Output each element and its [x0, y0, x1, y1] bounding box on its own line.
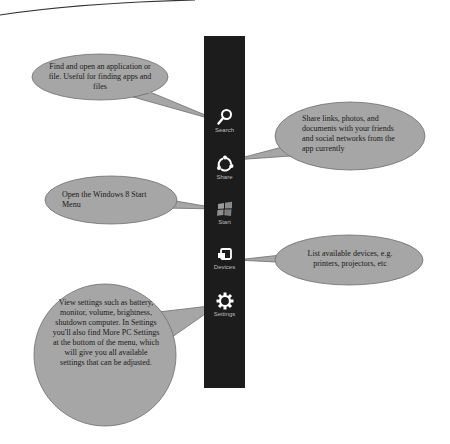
charm-label-search: Search: [204, 127, 245, 134]
devices-callout-text: List available devices, e.g. printers, p…: [300, 249, 400, 269]
charm-label-devices: Devices: [204, 264, 245, 271]
magnifier-icon: [217, 108, 233, 126]
charm-search[interactable]: Search: [204, 108, 245, 134]
devices-icon: [216, 247, 234, 263]
charm-label-share: Share: [204, 174, 245, 181]
settings-callout-text: View settings such as battery, monitor, …: [52, 298, 160, 368]
charm-devices[interactable]: Devices: [204, 247, 245, 271]
windows-logo-icon: [216, 200, 234, 218]
charm-label-start: Start: [204, 219, 245, 226]
gear-icon: [216, 292, 234, 310]
share-callout-text: Share links, photos, and documents with …: [302, 114, 402, 154]
charm-label-settings: Settings: [204, 311, 245, 318]
share-icon: [216, 155, 234, 173]
charm-start[interactable]: Start: [204, 200, 245, 226]
charm-settings[interactable]: Settings: [204, 292, 245, 318]
charms-bar: Search Share Start Devices: [204, 36, 245, 388]
start-callout-text: Open the Windows 8 Start Menu: [62, 190, 162, 210]
page-edge-curve: [0, 0, 195, 15]
charm-share[interactable]: Share: [204, 155, 245, 181]
search-callout-text: Find and open an application or file. Us…: [48, 62, 152, 92]
